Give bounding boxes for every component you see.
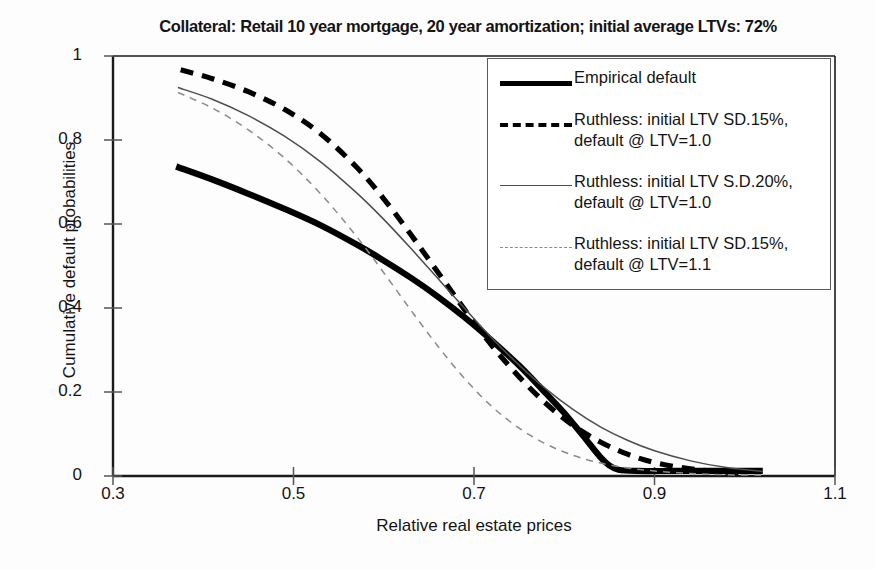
legend-swatch-thin-solid-icon <box>498 176 574 196</box>
chart-figure: Collateral: Retail 10 year mortgage, 20 … <box>0 0 875 570</box>
legend-entry[interactable]: Ruthless: initial LTV SD.15%, default @ … <box>488 109 832 150</box>
legend-swatch-thick-solid-icon <box>498 72 574 92</box>
legend-entry[interactable]: Ruthless: initial LTV S.D.20%, default @… <box>488 171 832 212</box>
legend-line-sample <box>500 185 572 186</box>
legend-entry[interactable]: Empirical default <box>488 67 832 92</box>
legend-line-sample <box>500 123 572 127</box>
legend-line-sample <box>500 247 572 248</box>
legend-line-sample <box>500 81 572 86</box>
legend-label: Ruthless: initial LTV SD.15%, default @ … <box>574 109 788 150</box>
legend-swatch-thin-dashed-icon <box>498 238 574 258</box>
legend-label: Empirical default <box>574 67 696 88</box>
legend-label: Ruthless: initial LTV SD.15%, default @ … <box>574 233 788 274</box>
legend-entry[interactable]: Ruthless: initial LTV SD.15%, default @ … <box>488 233 832 274</box>
legend-label: Ruthless: initial LTV S.D.20%, default @… <box>574 171 793 212</box>
legend-swatch-thick-dashed-icon <box>498 114 574 134</box>
chart-legend: Empirical defaultRuthless: initial LTV S… <box>487 58 831 290</box>
